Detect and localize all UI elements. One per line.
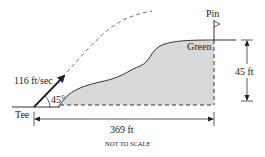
velocity-label: 116 ft/sec [14,75,53,86]
angle-label: 45° [51,94,65,105]
height-label: 45 ft [235,66,254,77]
golf-diagram: Pin Green Tee 116 ft/sec 45° 45 ft 369 f… [0,0,265,157]
not-to-scale-note: NOT TO SCALE [105,140,151,147]
distance-label: 369 ft [110,124,134,135]
pin-label: Pin [206,8,219,19]
tee-label: Tee [15,109,30,120]
green-label: Green [187,41,211,52]
angle-arc [45,96,50,107]
flag-icon [214,21,220,27]
ball-trajectory [67,11,152,72]
